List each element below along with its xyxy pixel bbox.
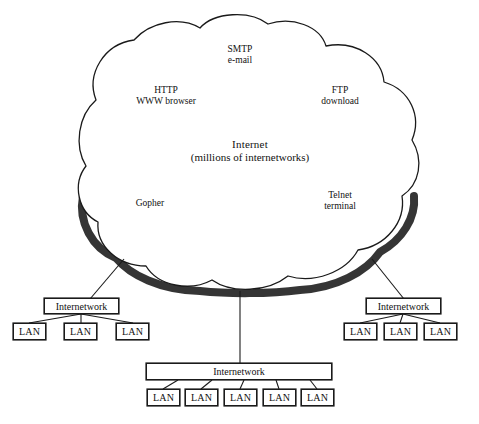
service-ftp-line1: FTP — [306, 85, 374, 96]
bottom-lan-label-2: LAN — [191, 392, 212, 403]
service-label-gopher: Gopher — [118, 198, 182, 209]
left-lan-box-1[interactable]: LAN — [13, 323, 46, 340]
right-internetwork-box[interactable]: Internetwork — [366, 298, 441, 314]
bottom-lan-box-1[interactable]: LAN — [147, 389, 180, 406]
cloud-center-label: Internet (millions of internetworks) — [150, 138, 350, 164]
bottom-cluster-links — [163, 380, 317, 389]
bottom-lan-box-2[interactable]: LAN — [185, 389, 218, 406]
service-http-line1: HTTP — [122, 85, 210, 96]
service-label-ftp: FTP download — [306, 85, 374, 107]
bottom-lan-box-5[interactable]: LAN — [301, 389, 334, 406]
service-gopher-line1: Gopher — [118, 198, 182, 209]
bottom-lan-label-3: LAN — [230, 392, 251, 403]
left-lan-label-2: LAN — [70, 326, 91, 337]
bottom-internetwork-label: Internetwork — [213, 366, 265, 377]
service-telnet-line1: Telnet — [308, 190, 372, 201]
bottom-lan-box-3[interactable]: LAN — [224, 389, 257, 406]
left-internetwork-box[interactable]: Internetwork — [44, 298, 119, 314]
service-telnet-line2: terminal — [308, 201, 372, 212]
right-lan-box-1[interactable]: LAN — [344, 323, 377, 340]
cloud-center-line1: Internet — [150, 138, 350, 151]
service-smtp-line2: e-mail — [205, 55, 275, 66]
right-internetwork-label: Internetwork — [378, 301, 430, 312]
left-lan-label-3: LAN — [122, 326, 143, 337]
bottom-lan-label-5: LAN — [307, 392, 328, 403]
service-label-smtp: SMTP e-mail — [205, 44, 275, 66]
service-label-telnet: Telnet terminal — [308, 190, 372, 212]
bottom-lan-box-4[interactable]: LAN — [263, 389, 296, 406]
bottom-lan-label-4: LAN — [269, 392, 290, 403]
connector-left — [90, 259, 124, 299]
cloud-center-line2: (millions of internetworks) — [150, 151, 350, 164]
right-lan-label-1: LAN — [350, 326, 371, 337]
right-lan-box-3[interactable]: LAN — [424, 323, 457, 340]
right-lan-box-2[interactable]: LAN — [384, 323, 417, 340]
left-cluster-links — [29, 314, 133, 323]
bottom-internetwork-box[interactable]: Internetwork — [146, 363, 332, 380]
internet-cloud-diagram: SMTP e-mail HTTP WWW browser FTP downloa… — [0, 0, 479, 424]
left-lan-box-2[interactable]: LAN — [64, 323, 97, 340]
right-cluster-links — [360, 314, 440, 323]
connector-right — [372, 259, 404, 299]
service-smtp-line1: SMTP — [205, 44, 275, 55]
service-label-http: HTTP WWW browser — [122, 85, 210, 107]
bottom-lan-label-1: LAN — [153, 392, 174, 403]
left-internetwork-label: Internetwork — [56, 301, 108, 312]
right-lan-label-2: LAN — [390, 326, 411, 337]
service-http-line2: WWW browser — [122, 96, 210, 107]
right-lan-label-3: LAN — [430, 326, 451, 337]
left-lan-label-1: LAN — [19, 326, 40, 337]
service-ftp-line2: download — [306, 96, 374, 107]
left-lan-box-3[interactable]: LAN — [116, 323, 149, 340]
